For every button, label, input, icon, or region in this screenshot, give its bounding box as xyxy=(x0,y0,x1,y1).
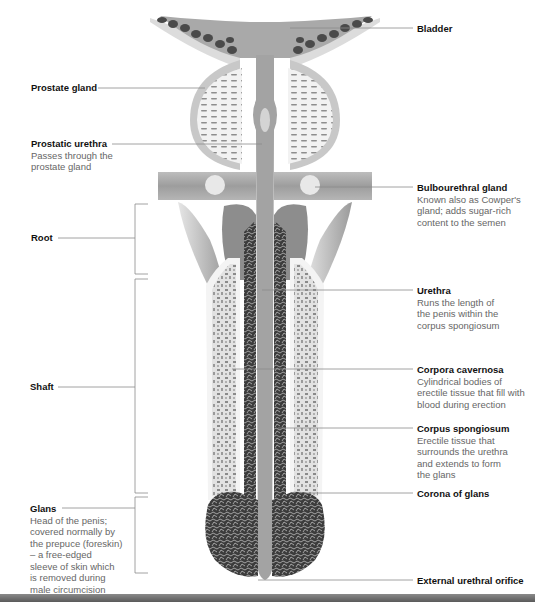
label-desc: is removed during xyxy=(30,572,122,584)
label-desc: gland; adds sugar-rich xyxy=(417,205,521,217)
label-desc: – a free-edged xyxy=(30,549,122,561)
label-title: Bulbourethral gland xyxy=(417,182,521,194)
label-title: External urethral orifice xyxy=(417,575,524,587)
label-glans: Glans Head of the penis; covered normall… xyxy=(30,503,122,595)
label-desc: the penis within the xyxy=(417,308,499,320)
label-desc: surrounds the urethra xyxy=(417,446,509,458)
label-title: Glans xyxy=(30,503,122,515)
label-desc: sleeve of skin which xyxy=(30,561,122,573)
label-corpora-cavernosa: Corpora cavernosa Cylindrical bodies of … xyxy=(417,364,525,410)
label-desc: Known also as Cowper's xyxy=(417,194,521,206)
label-desc: covered normally by xyxy=(30,526,122,538)
label-desc: Cylindrical bodies of xyxy=(417,376,525,388)
label-title: Urethra xyxy=(417,285,499,297)
label-shaft: Shaft xyxy=(30,381,54,393)
label-desc: prostate gland xyxy=(31,161,113,173)
label-root: Root xyxy=(31,232,53,244)
label-desc: blood during erection xyxy=(417,399,525,411)
label-corpus-spongiosum: Corpus spongiosum Erectile tissue that s… xyxy=(417,423,509,481)
label-desc: erectile tissue that fill with xyxy=(417,387,525,399)
label-prostatic-urethra: Prostatic urethra Passes through the pro… xyxy=(31,138,113,173)
label-title: Prostatic urethra xyxy=(31,138,113,150)
label-desc: and extends to form xyxy=(417,458,509,470)
label-bladder: Bladder xyxy=(417,23,452,35)
label-urethra: Urethra Runs the length of the penis wit… xyxy=(417,285,499,331)
label-desc: Head of the penis; xyxy=(30,515,122,527)
label-desc: the glans xyxy=(417,469,509,481)
label-external-urethral-orifice: External urethral orifice xyxy=(417,575,524,587)
label-desc: Passes through the xyxy=(31,150,113,162)
label-bulbourethral-gland: Bulbourethral gland Known also as Cowper… xyxy=(417,182,521,228)
label-prostate-gland: Prostate gland xyxy=(31,82,97,94)
label-desc: content to the semen xyxy=(417,217,521,229)
anatomy-diagram: Prostate gland Prostatic urethra Passes … xyxy=(0,0,535,602)
label-title: Corpora cavernosa xyxy=(417,364,525,376)
label-desc: the prepuce (foreskin) xyxy=(30,538,122,550)
label-title: Corpus spongiosum xyxy=(417,423,509,435)
muscle-band-right xyxy=(274,172,372,200)
label-title: Root xyxy=(31,232,53,244)
bottom-border-bar xyxy=(0,594,535,602)
label-desc: Runs the length of xyxy=(417,297,499,309)
label-desc: corpus spongiosum xyxy=(417,320,499,332)
label-title: Shaft xyxy=(30,381,54,393)
label-desc: Erectile tissue that xyxy=(417,435,509,447)
label-title: Prostate gland xyxy=(31,82,97,94)
label-title: Corona of glans xyxy=(417,488,489,500)
label-corona-of-glans: Corona of glans xyxy=(417,488,489,500)
label-title: Bladder xyxy=(417,23,452,35)
